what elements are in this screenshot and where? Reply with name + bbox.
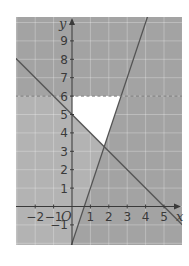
y-tick-label: 3 <box>60 145 68 159</box>
x-tick-label: −2 <box>26 210 44 224</box>
x-tick-label: 1 <box>87 210 95 224</box>
y-axis-label: y <box>58 16 67 31</box>
inequality-graph: −2−112345−1123456789xyO <box>0 0 189 266</box>
y-tick-label: 4 <box>60 126 68 140</box>
x-tick-label: 3 <box>123 210 131 224</box>
x-tick-label: 5 <box>160 210 168 224</box>
x-axis-label: x <box>176 209 184 224</box>
x-tick-label: 2 <box>105 210 113 224</box>
plot-area: −2−112345−1123456789xyO <box>15 11 184 246</box>
y-tick-label: 7 <box>60 71 68 85</box>
y-tick-label: 8 <box>60 53 68 67</box>
y-tick-label: 6 <box>60 90 68 104</box>
y-tick-label: 1 <box>60 182 68 196</box>
x-tick-label: 4 <box>142 210 150 224</box>
y-tick-label: 9 <box>60 34 68 48</box>
y-tick-label: 5 <box>60 108 68 122</box>
origin-label: O <box>61 209 72 224</box>
y-tick-label: 2 <box>60 163 68 177</box>
